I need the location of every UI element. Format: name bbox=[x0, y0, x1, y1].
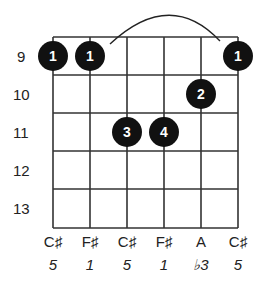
degree-label: 5 bbox=[49, 256, 58, 273]
finger-dot: 1 bbox=[38, 41, 68, 71]
finger-dots: 1 1 1 2 3 4 bbox=[38, 41, 253, 147]
svg-text:1: 1 bbox=[49, 48, 57, 64]
finger-dot: 1 bbox=[223, 41, 253, 71]
note-labels: C♯ F♯ C♯ F♯ A C♯ bbox=[44, 233, 248, 250]
note-label: C♯ bbox=[229, 233, 248, 250]
degree-label: 1 bbox=[86, 256, 94, 273]
fret-label-13: 13 bbox=[13, 200, 30, 217]
note-label: C♯ bbox=[44, 233, 63, 250]
finger-dot: 3 bbox=[112, 117, 142, 147]
degree-label: ♭3 bbox=[193, 256, 209, 273]
finger-dot: 2 bbox=[186, 79, 216, 109]
degree-labels: 5 1 5 1 ♭3 5 bbox=[49, 256, 243, 273]
degree-label: 5 bbox=[123, 256, 132, 273]
svg-text:2: 2 bbox=[197, 86, 205, 102]
chord-diagram: 9 10 11 12 13 1 1 1 2 3 4 bbox=[0, 0, 268, 290]
svg-text:1: 1 bbox=[86, 48, 94, 64]
degree-label: 1 bbox=[160, 256, 168, 273]
fret-label-9: 9 bbox=[17, 48, 25, 65]
fret-labels: 9 10 11 12 13 bbox=[13, 48, 30, 217]
svg-text:1: 1 bbox=[234, 48, 242, 64]
finger-dot: 4 bbox=[149, 117, 179, 147]
note-label: C♯ bbox=[118, 233, 137, 250]
finger-dot: 1 bbox=[75, 41, 105, 71]
degree-label: 5 bbox=[234, 256, 243, 273]
fret-label-11: 11 bbox=[13, 124, 29, 141]
note-label: F♯ bbox=[82, 233, 99, 250]
note-label: A bbox=[196, 233, 206, 250]
svg-text:3: 3 bbox=[123, 124, 131, 140]
note-label: F♯ bbox=[156, 233, 173, 250]
fret-label-10: 10 bbox=[13, 86, 30, 103]
fret-label-12: 12 bbox=[13, 162, 30, 179]
svg-text:4: 4 bbox=[160, 124, 168, 140]
